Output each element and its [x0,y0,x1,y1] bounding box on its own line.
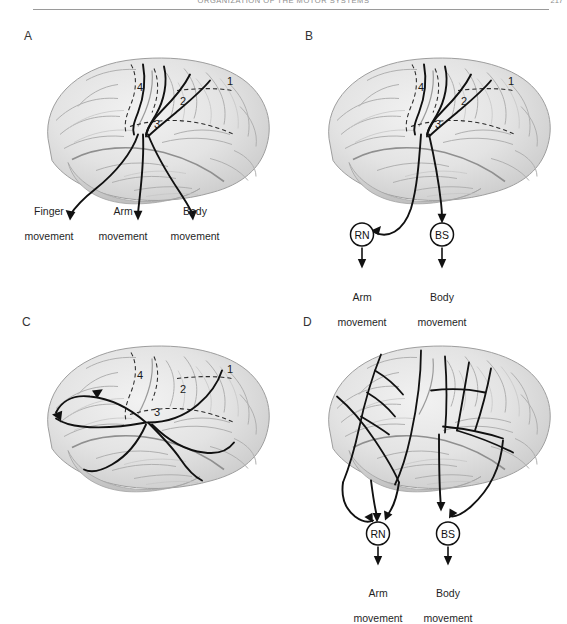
panel-a-output-body-line1: Body [183,205,207,217]
running-head: ORGANIZATION OF THE MOTOR SYSTEMS [0,0,567,7]
page-folio: 217 [550,0,563,7]
panel-c-letter: C [22,315,31,329]
panel-d: D [283,310,567,585]
panel-a-output-finger: Finger movement [12,192,86,242]
panel-a: A [0,24,283,284]
panel-d-output-body-line1: Body [436,587,460,599]
panel-a-output-finger-line2: movement [24,230,73,242]
panel-a-output-body: Body movement [158,192,232,242]
panel-d-node-rn: RN [367,522,390,545]
panel-b-letter: B [305,29,313,43]
svg-text:RN: RN [354,229,369,241]
panel-a-letter: A [24,29,32,43]
panel-c-area-3: 3 [154,406,160,418]
panel-a-output-body-line2: movement [170,230,219,242]
panel-d-letter: D [303,315,312,329]
svg-text:BS: BS [435,229,449,241]
panel-c-area-2: 2 [180,383,186,395]
panel-b-area-2: 2 [461,95,467,107]
svg-text:BS: BS [441,528,455,540]
panel-a-output-arm-line1: Arm [113,205,132,217]
panel-a-area-4: 4 [137,81,143,93]
panel-b-area-3: 3 [435,118,441,130]
panel-d-output-arm-line2: movement [353,612,402,624]
panel-a-output-arm-line2: movement [98,230,147,242]
panel-d-node-bs: BS [437,522,460,545]
panel-d-brain: RN BS [315,328,567,578]
panel-a-area-3: 3 [154,118,160,130]
panel-d-output-body-line2: movement [423,612,472,624]
panel-a-area-1: 1 [227,75,233,87]
panel-b-output-body-line1: Body [430,291,454,303]
panel-b-brain: 1 2 3 4 RN BS [315,40,567,290]
panel-b-area-1: 1 [508,75,514,87]
panel-d-output-arm: Arm movement [341,574,415,624]
svg-text:RN: RN [370,528,385,540]
panel-b-node-rn: RN [351,223,374,246]
panel-b-area-4: 4 [418,81,424,93]
panel-d-output-body: Body movement [411,574,485,624]
panel-c: C [0,310,283,510]
panel-c-area-4: 4 [137,369,143,381]
panel-a-area-2: 2 [180,95,186,107]
panel-c-area-1: 1 [227,363,233,375]
header-rule [33,9,549,10]
panel-a-output-finger-line1: Finger [34,205,64,217]
panel-c-brain: 1 2 3 4 [34,328,284,508]
panel-b: B [283,24,567,294]
panel-d-output-arm-line1: Arm [368,587,387,599]
panel-b-node-bs: BS [431,223,454,246]
panel-a-output-arm: Arm movement [86,192,160,242]
panel-b-output-arm-line1: Arm [352,291,371,303]
